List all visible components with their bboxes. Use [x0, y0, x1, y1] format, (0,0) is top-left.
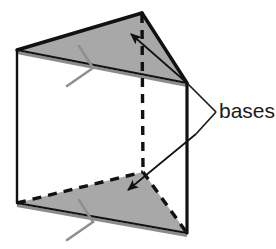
- prism-diagram: bases: [0, 0, 276, 249]
- upper-leader-line: [187, 83, 216, 112]
- leader-lines-group: [187, 83, 216, 134]
- bases-label: bases: [219, 99, 275, 122]
- prism-figure: bases: [0, 0, 276, 249]
- lower-leader-line: [196, 112, 216, 134]
